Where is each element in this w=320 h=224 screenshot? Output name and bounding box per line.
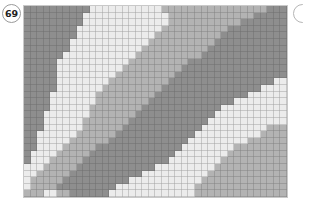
chart-cell [142,46,149,53]
chart-cell [202,85,209,92]
chart-cell [90,46,97,53]
chart-cell [261,46,268,53]
chart-cell [274,65,281,72]
chart-cell [228,105,235,112]
chart-cell [228,72,235,79]
chart-cell [195,144,202,151]
chart-cell [70,131,77,138]
chart-cell [169,157,176,164]
chart-cell [202,6,209,13]
chart-cell [37,111,44,118]
chart-cell [136,98,143,105]
chart-cell [280,125,287,132]
chart-cell [202,184,209,191]
chart-cell [103,118,110,125]
chart-cell [57,72,64,79]
chart-cell [142,52,149,59]
chart-cell [261,65,268,72]
chart-cell [123,19,130,26]
chart-cell [31,190,38,197]
chart-cell [267,85,274,92]
chart-cell [96,144,103,151]
chart-cell [280,65,287,72]
chart-cell [123,39,130,46]
chart-cell [44,6,51,13]
chart-cell [31,72,38,79]
chart-cell [37,98,44,105]
chart-cell [142,32,149,39]
chart-cell [142,138,149,145]
chart-cell [90,52,97,59]
chart-cell [228,98,235,105]
chart-cell [241,85,248,92]
chart-cell [267,6,274,13]
chart-cell [70,125,77,132]
chart-cell [195,13,202,20]
chart-cell [77,46,84,53]
chart-cell [123,52,130,59]
chart-cell [129,157,136,164]
chart-cell [169,184,176,191]
chart-cell [254,105,261,112]
chart-cell [175,65,182,72]
chart-cell [169,26,176,33]
chart-cell [208,157,215,164]
chart-cell [202,118,209,125]
chart-cell [228,59,235,66]
chart-cell [280,164,287,171]
chart-cell [123,125,130,132]
chart-cell [77,171,84,178]
chart-cell [274,92,281,99]
chart-cell [188,26,195,33]
chart-cell [254,52,261,59]
chart-cell [77,184,84,191]
chart-cell [241,65,248,72]
chart-cell [228,85,235,92]
chart-cell [31,59,38,66]
chart-cell [274,19,281,26]
chart-cell [96,157,103,164]
chart-cell [274,190,281,197]
chart-cell [234,78,241,85]
chart-cell [103,131,110,138]
chart-cell [90,125,97,132]
chart-cell [254,92,261,99]
chart-cell [162,118,169,125]
chart-cell [123,6,130,13]
chart-cell [155,92,162,99]
chart-cell [267,92,274,99]
chart-cell [202,177,209,184]
chart-cell [254,111,261,118]
chart-cell [44,19,51,26]
chart-cell [103,52,110,59]
chart-cell [169,190,176,197]
chart-cell [234,85,241,92]
chart-cell [155,98,162,105]
chart-cell [195,26,202,33]
chart-cell [274,78,281,85]
chart-cell [77,85,84,92]
chart-cell [37,177,44,184]
chart-cell [37,26,44,33]
chart-cell [103,125,110,132]
chart-cell [37,125,44,132]
chart-cell [280,78,287,85]
chart-cell [96,13,103,20]
chart-cell [188,85,195,92]
chart-cell [31,6,38,13]
chart-cell [234,26,241,33]
chart-cell [241,118,248,125]
chart-cell [109,52,116,59]
chart-cell [77,138,84,145]
chart-cell [208,13,215,20]
chart-cell [234,177,241,184]
chart-cell [234,6,241,13]
chart-cell [175,59,182,66]
chart-cell [123,144,130,151]
chart-cell [188,39,195,46]
chart-cell [175,177,182,184]
chart-cell [96,184,103,191]
chart-cell [188,118,195,125]
chart-cell [280,59,287,66]
chart-cell [57,151,64,158]
